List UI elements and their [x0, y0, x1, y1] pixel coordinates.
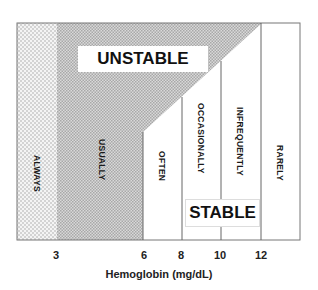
column-label-always: ALWAYS	[32, 155, 42, 192]
column-label-often: OFTEN	[157, 151, 167, 181]
diagram-graphics	[0, 0, 318, 290]
x-tick-6: 6	[141, 249, 147, 261]
column-label-usually: USUALLY	[97, 139, 107, 180]
column-label-occasionally: OCCASIONALLY	[196, 103, 206, 174]
x-tick-10: 10	[214, 249, 226, 261]
transfusion-diagram: UNSTABLE STABLE ALWAYS USUALLY OFTEN OCC…	[0, 0, 318, 290]
column-label-infrequently: INFREQUENTLY	[235, 107, 245, 176]
x-tick-8: 8	[178, 249, 184, 261]
unstable-label: UNSTABLE	[78, 46, 208, 72]
x-tick-12: 12	[255, 249, 267, 261]
x-tick-3: 3	[53, 249, 59, 261]
always-region	[17, 23, 57, 240]
stable-label: STABLE	[185, 199, 260, 227]
x-axis-title: Hemoglobin (mg/dL)	[0, 268, 318, 280]
column-label-rarely: RARELY	[275, 145, 285, 181]
